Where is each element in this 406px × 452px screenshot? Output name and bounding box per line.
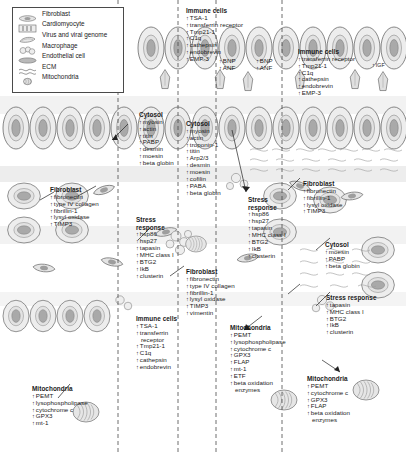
annotation-cytosol-right: Cytosol moesin PABP beta globin bbox=[325, 241, 360, 269]
protein-item: beta globin bbox=[139, 160, 174, 167]
protein-item: endobrevin bbox=[136, 364, 177, 371]
annotation-immune-top-right: Immune cells transferrin receptor Tmp21-… bbox=[298, 48, 355, 97]
virus-icon bbox=[18, 30, 37, 39]
legend-label: Endothelial cell bbox=[42, 52, 85, 59]
legend-item-virus: Virus and viral genome bbox=[13, 29, 123, 40]
annotation-mito-mid: Mitochondria PEMT lysophospholipase cyto… bbox=[230, 324, 286, 394]
protein-item: beta globin bbox=[325, 263, 360, 270]
annotation-fibroblast-mid: Fibroblast fibronectin type IV collagen … bbox=[186, 268, 235, 317]
legend-item-macrophage: Macrophage bbox=[13, 40, 123, 51]
legend-item-ecm: ECM bbox=[13, 61, 123, 72]
protein-item-cont: enzymes bbox=[307, 417, 350, 424]
annotation-cytosol-mid: Cytosol myosin actin troponin-1 titin Ar… bbox=[186, 120, 221, 197]
legend-item-endothelial: Endothelial cell bbox=[13, 50, 123, 61]
legend-label: ECM bbox=[42, 63, 56, 70]
legend-label: Mitochondria bbox=[42, 73, 79, 80]
annotation-fibroblast-right: Fibroblast fibronectin fibrillin-1 lysyl… bbox=[303, 180, 343, 215]
annotation-cytosol-left: Cytosol myosin actin titin PABP desmin m… bbox=[139, 111, 174, 167]
figure-canvas: Fibroblast Cardiomyocyte Virus and viral… bbox=[0, 0, 406, 452]
block-header: Stress bbox=[136, 216, 174, 223]
protein-item: TIMP3 bbox=[50, 221, 99, 228]
annotation-immune-top-mid: Immune cells TSA-1 transferrin receptor … bbox=[186, 7, 243, 63]
annotation-stress-mid: Stress response hsp86 hsp27 tapasin MHC … bbox=[248, 196, 286, 260]
macrophage-icon bbox=[18, 41, 37, 50]
annotation-stress-right: Stress response tapasin MHC class I BTG2… bbox=[326, 294, 376, 336]
annotation-immune-mid-low: Immune cells TSA-1 transferrin receptor … bbox=[136, 315, 177, 371]
protein-item: TIMP3 bbox=[303, 208, 343, 215]
annotation-igf: IGF bbox=[372, 62, 385, 69]
protein-item: beta globin bbox=[186, 190, 221, 197]
block-header: Stress bbox=[248, 196, 286, 203]
annotation-natriuretic-left: BNP ANF bbox=[256, 58, 273, 72]
legend-item-fibroblast: Fibroblast bbox=[13, 8, 123, 19]
cardiomyocyte-icon bbox=[18, 19, 37, 28]
annotation-natriuretic-right: BNP ANF bbox=[219, 58, 236, 72]
annotation-stress-left: Stress response hsp86 hsp27 tapasin MHC … bbox=[136, 216, 174, 280]
legend-label: Cardiomyocyte bbox=[42, 20, 85, 27]
protein-item: mt-1 bbox=[32, 420, 88, 427]
legend-box: Fibroblast Cardiomyocyte Virus and viral… bbox=[12, 7, 124, 93]
legend-label: Fibroblast bbox=[42, 10, 70, 17]
annotation-fibroblast-left: Fibroblast fibronectin type IV collagen … bbox=[50, 186, 99, 228]
ecm-icon bbox=[18, 62, 37, 71]
fibroblast-icon bbox=[18, 9, 37, 18]
protein-item: IGF bbox=[372, 62, 385, 69]
legend-label: Macrophage bbox=[42, 42, 78, 49]
protein-item: vimentin bbox=[186, 310, 235, 317]
protein-item: ANF bbox=[219, 65, 236, 72]
protein-item: ANF bbox=[256, 65, 273, 72]
legend-item-mitochondria: Mitochondria bbox=[13, 72, 123, 83]
protein-item: clusterin bbox=[248, 253, 286, 260]
protein-item-cont: enzymes bbox=[230, 387, 286, 394]
mitochondria-icon bbox=[18, 72, 37, 81]
protein-item: clusterin bbox=[326, 329, 376, 336]
annotation-mito-right: Mitochondria PEMT cytochrome c GPX3 FLAP… bbox=[307, 375, 350, 424]
legend-item-cardiomyocyte: Cardiomyocyte bbox=[13, 19, 123, 30]
protein-item: clusterin bbox=[136, 273, 174, 280]
annotation-mito-left: Mitochondria PEMT lysophospholipase cyto… bbox=[32, 385, 88, 427]
protein-item: EMP-3 bbox=[298, 90, 355, 97]
legend-label: Virus and viral genome bbox=[42, 31, 107, 38]
endothelial-cell-icon bbox=[18, 51, 37, 60]
